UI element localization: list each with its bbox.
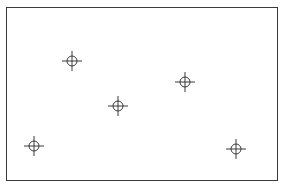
diagram-canvas [0,0,286,191]
plot-frame [6,7,278,181]
